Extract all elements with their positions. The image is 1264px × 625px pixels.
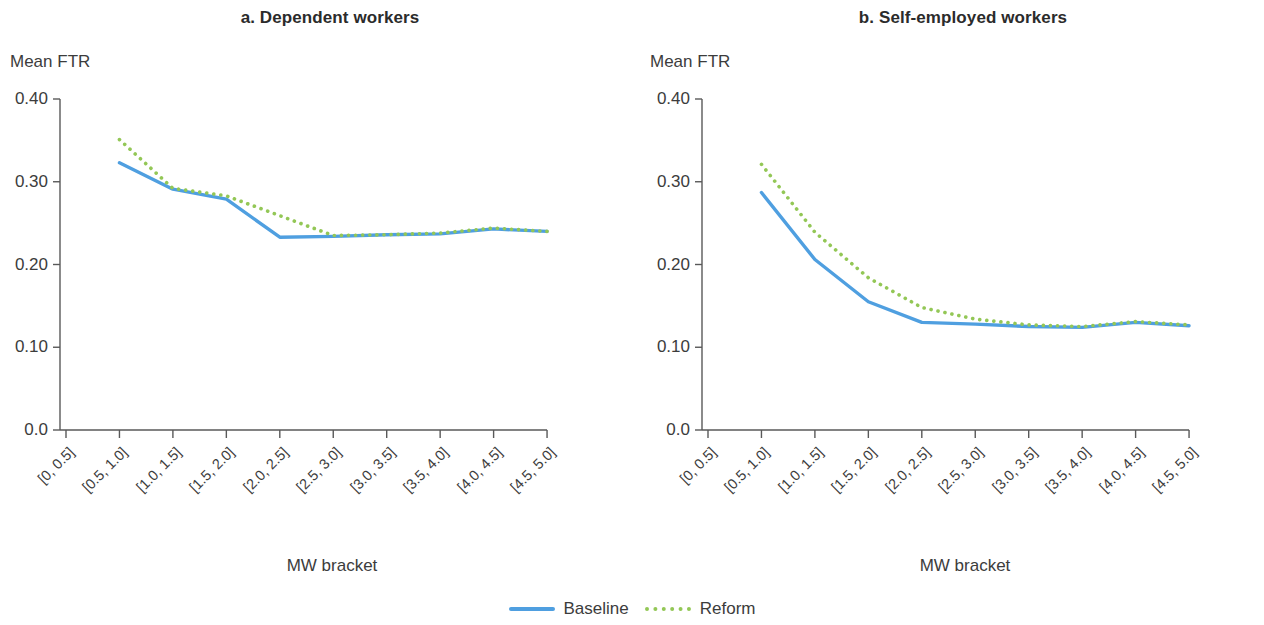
series-line-reform xyxy=(761,164,1189,326)
chart-panel-dependent-workers: a. Dependent workers Mean FTR MW bracket… xyxy=(0,0,632,590)
y-axis-tick-label: 0.30 xyxy=(0,172,48,192)
y-axis-tick-label: 0.10 xyxy=(632,337,690,357)
y-axis-tick-label: 0.30 xyxy=(632,172,690,192)
y-axis-tick-label: 0.40 xyxy=(632,89,690,109)
legend-label: Reform xyxy=(700,599,756,619)
chart-panel-self-employed-workers: b. Self-employed workers Mean FTR MW bra… xyxy=(632,0,1264,590)
y-axis-tick-label: 0.0 xyxy=(632,420,690,440)
y-axis-tick-label: 0.40 xyxy=(0,89,48,109)
y-axis-tick-label: 0.10 xyxy=(0,337,48,357)
y-axis-tick-label: 0.20 xyxy=(0,255,48,275)
x-axis-title: MW bracket xyxy=(632,556,1264,576)
series-line-baseline xyxy=(761,193,1189,328)
series-line-baseline xyxy=(119,163,547,237)
series-line-reform xyxy=(119,140,547,236)
y-axis-tick-label: 0.0 xyxy=(0,420,48,440)
plot-area xyxy=(632,0,1264,590)
solid-line-swatch-icon xyxy=(509,607,555,611)
dotted-line-swatch-icon xyxy=(645,607,691,611)
legend-label: Baseline xyxy=(564,599,629,619)
legend-item-baseline: Baseline xyxy=(509,599,629,619)
plot-area xyxy=(0,0,632,590)
legend-item-reform: Reform xyxy=(645,599,756,619)
figure-mean-ftr-by-mw-bracket: a. Dependent workers Mean FTR MW bracket… xyxy=(0,0,1264,625)
legend: Baseline Reform xyxy=(0,592,1264,625)
y-axis-tick-label: 0.20 xyxy=(632,255,690,275)
